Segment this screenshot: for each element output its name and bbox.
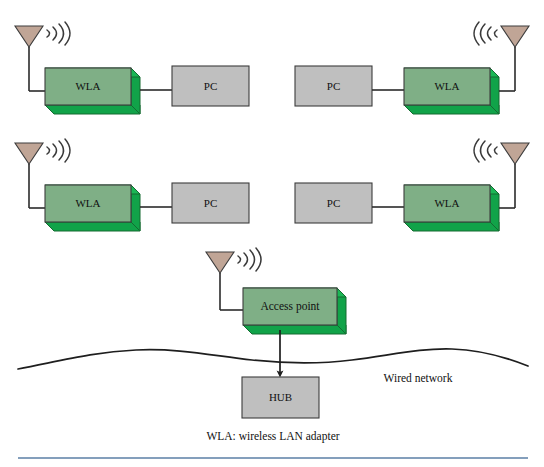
wla-adapter-box: WLA [45, 185, 140, 231]
wla-adapter-box: WLA [404, 68, 499, 114]
diagram-caption: WLA: wireless LAN adapter [206, 430, 339, 443]
wired-network-label: Wired network [384, 372, 453, 384]
wla-adapter-box: WLA [45, 68, 140, 114]
node-group-row-2-right: PC WLA [295, 139, 529, 231]
node-group-row-1-left: WLA PC [15, 22, 249, 114]
pc-box: PC [295, 183, 372, 223]
wavy-network-line-icon [18, 349, 528, 369]
pc-box: PC [172, 183, 249, 223]
access-point-group: Access point [206, 248, 346, 334]
antenna-icon [206, 252, 234, 310]
antenna-icon [501, 143, 529, 208]
network-diagram: WLA PC PC WLA [0, 0, 544, 467]
antenna-icon [501, 26, 529, 91]
wla-adapter-label: WLA [434, 197, 459, 209]
radio-waves-icon [474, 139, 497, 162]
wla-adapter-box: WLA [404, 185, 499, 231]
antenna-icon [15, 143, 43, 208]
wla-adapter-label: WLA [434, 80, 459, 92]
node-group-row-1-right: PC WLA [295, 22, 529, 114]
pc-label: PC [204, 197, 217, 209]
access-point-box: Access point [243, 288, 346, 334]
hub-label: HUB [269, 391, 292, 403]
radio-waves-icon [47, 22, 70, 45]
hub-box: HUB [242, 377, 319, 418]
wla-adapter-label: WLA [75, 80, 100, 92]
access-point-label: Access point [260, 300, 320, 313]
radio-waves-icon [238, 248, 261, 271]
pc-label: PC [327, 80, 340, 92]
pc-box: PC [295, 66, 372, 106]
pc-box: PC [172, 66, 249, 106]
pc-label: PC [327, 197, 340, 209]
pc-label: PC [204, 80, 217, 92]
radio-waves-icon [474, 22, 497, 45]
node-group-row-2-left: WLA PC [15, 139, 249, 231]
radio-waves-icon [47, 139, 70, 162]
diagram-canvas: WLA PC PC WLA [0, 0, 544, 467]
wla-adapter-label: WLA [75, 197, 100, 209]
antenna-icon [15, 26, 43, 91]
